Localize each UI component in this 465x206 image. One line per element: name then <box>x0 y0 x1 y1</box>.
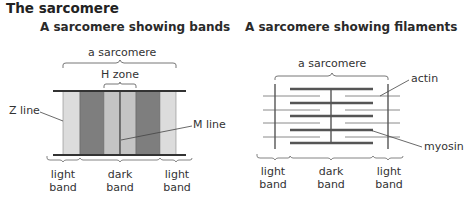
light-band-brace-right-r <box>373 156 403 160</box>
actin-pointer <box>380 80 409 96</box>
band-label-line2: band <box>311 178 351 191</box>
band-label-line1: light <box>369 165 409 178</box>
myosin-pointer <box>370 130 422 147</box>
light-band-label-right-r: light band <box>369 165 409 191</box>
light-band-brace-left-r <box>257 154 290 160</box>
band-label-line2: band <box>369 178 409 191</box>
band-label-line1: light <box>253 165 293 178</box>
dark-band-label-r: dark band <box>311 165 351 191</box>
band-label-line1: dark <box>311 165 351 178</box>
dark-band-brace-r <box>290 156 373 160</box>
light-band-label-left-r: light band <box>253 165 293 191</box>
band-label-line2: band <box>253 178 293 191</box>
sarcomere-brace-right <box>275 73 388 80</box>
